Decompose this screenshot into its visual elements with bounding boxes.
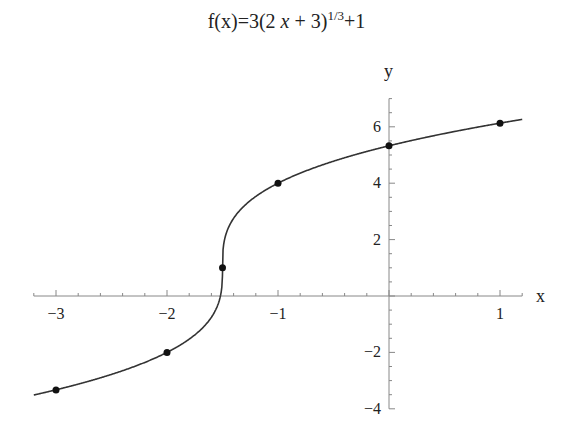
data-point [497,120,504,127]
axes: −3−2−11−4−2246 [34,99,522,417]
y-tick-label: 2 [373,231,381,248]
data-point [53,386,60,393]
y-tick-label: 6 [373,118,381,135]
data-point [275,180,282,187]
data-points [53,120,504,394]
x-axis-label: x [536,286,545,306]
y-tick-label: −2 [364,343,381,360]
x-tick-label: −1 [269,305,286,322]
x-tick-label: 1 [496,305,504,322]
data-point [386,142,393,149]
y-axis-label: y [384,61,393,81]
data-point [219,264,226,271]
y-tick-label: 4 [373,174,381,191]
y-tick-label: −4 [364,400,381,417]
plot-area: −3−2−11−4−2246 x y [0,0,573,439]
x-tick-label: −2 [158,305,175,322]
x-tick-label: −3 [47,305,64,322]
function-curve [34,119,522,395]
data-point [164,349,171,356]
